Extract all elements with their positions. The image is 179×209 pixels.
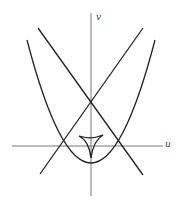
v-axis-label: v: [96, 12, 101, 22]
u-axis-label: u: [165, 139, 171, 149]
diagram-canvas: v u: [0, 0, 179, 209]
